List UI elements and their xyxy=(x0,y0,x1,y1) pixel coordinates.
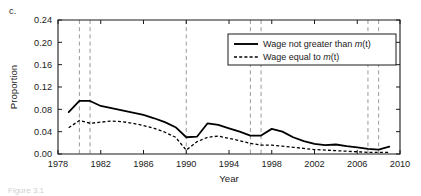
y-axis-title-group: Proportion xyxy=(8,65,19,109)
chart-legend[interactable]: Wage not greater than m(t) Wage equal to… xyxy=(228,34,396,65)
x-tick-label-2002: 2002 xyxy=(304,159,324,169)
x-tick-label-1994: 1994 xyxy=(219,159,239,169)
y-tick-label-0.08: 0.08 xyxy=(34,105,52,115)
y-tick-label-0.20: 0.20 xyxy=(34,38,52,48)
legend-label-wage-equal: Wage equal to m(t) xyxy=(263,52,339,62)
y-tick-label-0.00: 0.00 xyxy=(34,149,52,159)
x-axis-title: Year xyxy=(219,173,239,184)
x-tick-label-2010: 2010 xyxy=(390,159,410,169)
y-tick-label-0.04: 0.04 xyxy=(34,127,52,137)
chart-plot: 0.000.040.080.120.160.200.24 19781982198… xyxy=(0,0,421,196)
y-axis-title: Proportion xyxy=(8,65,19,109)
x-tick-label-2006: 2006 xyxy=(347,159,367,169)
x-tick-label-1998: 1998 xyxy=(262,159,282,169)
x-tick-label-1982: 1982 xyxy=(91,159,111,169)
figure-caption: Figure 3.1 xyxy=(8,186,44,195)
y-tick-label-0.16: 0.16 xyxy=(34,60,52,70)
x-tick-label-1990: 1990 xyxy=(176,159,196,169)
x-tick-label-1978: 1978 xyxy=(48,159,68,169)
series-line-wage-not-greater xyxy=(69,101,390,150)
figure-container: c. 0.000.040.080.120.160.200.24 19781982… xyxy=(0,0,421,196)
y-tick-label-0.24: 0.24 xyxy=(34,15,52,25)
y-tick-label-0.12: 0.12 xyxy=(34,82,52,92)
legend-label-wage-not-greater: Wage not greater than m(t) xyxy=(263,39,371,49)
x-tick-label-1986: 1986 xyxy=(133,159,153,169)
series-line-wage-equal xyxy=(69,121,390,153)
